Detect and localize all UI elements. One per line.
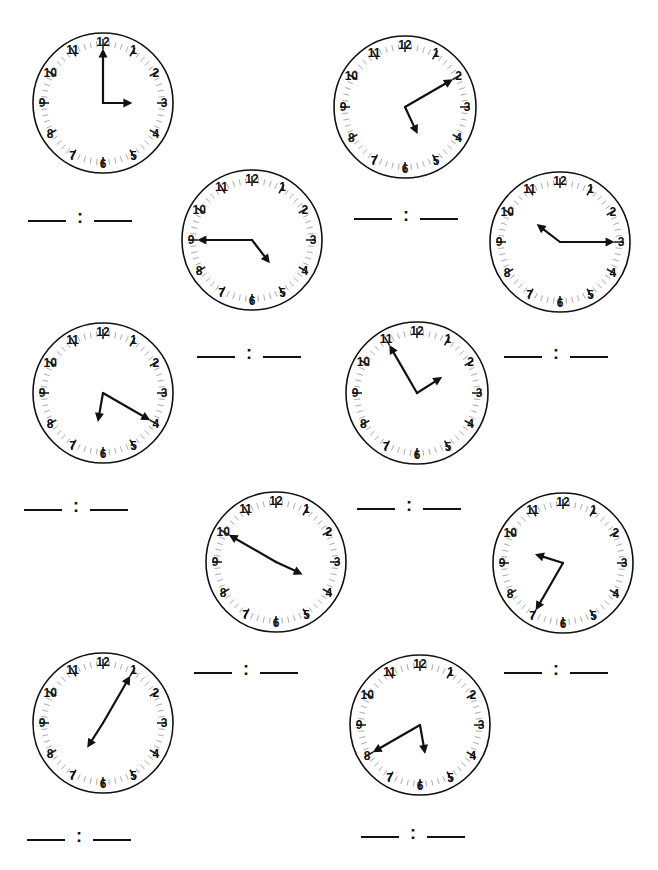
svg-text:7: 7 xyxy=(371,154,378,168)
svg-text:6: 6 xyxy=(273,616,280,630)
colon-separator: : xyxy=(402,206,410,224)
minute-blank[interactable] xyxy=(260,672,298,674)
time-answer-blank[interactable]: : xyxy=(194,650,298,680)
hour-blank[interactable] xyxy=(194,672,232,674)
svg-text:11: 11 xyxy=(368,46,381,60)
hour-blank[interactable] xyxy=(504,356,542,358)
hour-blank[interactable] xyxy=(504,672,542,674)
svg-text:8: 8 xyxy=(47,417,54,431)
svg-text:5: 5 xyxy=(433,154,440,168)
svg-text:5: 5 xyxy=(445,440,452,454)
svg-text:11: 11 xyxy=(380,332,393,346)
svg-text:12: 12 xyxy=(245,172,259,186)
svg-text:11: 11 xyxy=(239,502,252,516)
svg-text:2: 2 xyxy=(469,688,476,702)
svg-text:1: 1 xyxy=(590,503,597,517)
svg-text:2: 2 xyxy=(467,355,474,369)
time-answer-blank[interactable]: : xyxy=(357,486,461,516)
svg-text:8: 8 xyxy=(364,749,371,763)
time-answer-blank[interactable]: : xyxy=(27,817,131,847)
svg-text:6: 6 xyxy=(100,157,107,171)
svg-text:11: 11 xyxy=(526,503,539,517)
time-answer-blank[interactable]: : xyxy=(361,814,465,844)
svg-text:5: 5 xyxy=(590,609,597,623)
svg-text:5: 5 xyxy=(303,608,310,622)
svg-text:10: 10 xyxy=(345,69,359,83)
analog-clock: 121234567891011 xyxy=(347,652,493,798)
time-answer-blank[interactable]: : xyxy=(504,334,608,364)
svg-text:12: 12 xyxy=(96,325,110,339)
colon-separator: : xyxy=(245,344,253,362)
hour-blank[interactable] xyxy=(24,509,62,511)
analog-clock: 121234567891011 xyxy=(490,490,636,636)
svg-text:10: 10 xyxy=(193,203,207,217)
hour-blank[interactable] xyxy=(354,218,392,220)
svg-text:3: 3 xyxy=(161,96,168,110)
minute-blank[interactable] xyxy=(420,218,458,220)
hour-blank[interactable] xyxy=(28,220,66,222)
minute-blank[interactable] xyxy=(570,672,608,674)
svg-text:12: 12 xyxy=(413,657,427,671)
svg-text:7: 7 xyxy=(526,288,533,302)
svg-text:4: 4 xyxy=(152,127,159,141)
time-answer-blank[interactable]: : xyxy=(197,334,301,364)
svg-text:4: 4 xyxy=(301,264,308,278)
hour-blank[interactable] xyxy=(361,836,399,838)
svg-text:8: 8 xyxy=(220,586,227,600)
svg-text:5: 5 xyxy=(279,286,286,300)
svg-text:7: 7 xyxy=(69,149,76,163)
svg-text:12: 12 xyxy=(96,35,110,49)
colon-separator: : xyxy=(409,824,417,842)
minute-blank[interactable] xyxy=(94,220,132,222)
svg-text:11: 11 xyxy=(66,663,79,677)
svg-text:9: 9 xyxy=(352,386,359,400)
minute-blank[interactable] xyxy=(93,839,131,841)
svg-text:6: 6 xyxy=(100,777,107,791)
hour-blank[interactable] xyxy=(357,508,395,510)
minute-blank[interactable] xyxy=(570,356,608,358)
svg-text:2: 2 xyxy=(152,66,159,80)
svg-text:10: 10 xyxy=(44,356,58,370)
svg-text:3: 3 xyxy=(621,556,628,570)
svg-text:5: 5 xyxy=(587,288,594,302)
svg-text:4: 4 xyxy=(612,587,619,601)
svg-text:4: 4 xyxy=(609,266,616,280)
time-answer-blank[interactable]: : xyxy=(24,487,128,517)
svg-text:12: 12 xyxy=(398,38,412,52)
svg-text:2: 2 xyxy=(152,356,159,370)
svg-text:1: 1 xyxy=(445,332,452,346)
svg-text:11: 11 xyxy=(66,333,79,347)
minute-blank[interactable] xyxy=(263,356,301,358)
svg-text:12: 12 xyxy=(553,174,567,188)
svg-text:3: 3 xyxy=(310,233,317,247)
svg-text:9: 9 xyxy=(188,233,195,247)
time-answer-blank[interactable]: : xyxy=(28,198,132,228)
clock-face: 121234567891011 xyxy=(487,169,633,315)
svg-text:10: 10 xyxy=(44,686,58,700)
analog-clock: 121234567891011 xyxy=(331,33,479,181)
svg-text:1: 1 xyxy=(279,180,286,194)
time-answer-blank[interactable]: : xyxy=(354,196,458,226)
clock-face: 121234567891011 xyxy=(203,489,349,635)
svg-text:2: 2 xyxy=(609,205,616,219)
clock-face: 121234567891011 xyxy=(490,490,636,636)
hour-blank[interactable] xyxy=(27,839,65,841)
svg-text:2: 2 xyxy=(612,526,619,540)
analog-clock: 121234567891011 xyxy=(30,30,176,176)
time-answer-blank[interactable]: : xyxy=(504,650,608,680)
svg-text:7: 7 xyxy=(242,608,249,622)
svg-text:4: 4 xyxy=(467,417,474,431)
svg-text:1: 1 xyxy=(130,333,137,347)
svg-text:7: 7 xyxy=(386,771,393,785)
clock-face: 121234567891011 xyxy=(343,319,491,467)
minute-blank[interactable] xyxy=(423,508,461,510)
svg-text:8: 8 xyxy=(47,127,54,141)
minute-blank[interactable] xyxy=(90,509,128,511)
svg-text:8: 8 xyxy=(507,587,514,601)
minute-blank[interactable] xyxy=(427,836,465,838)
svg-text:6: 6 xyxy=(560,617,567,631)
svg-text:2: 2 xyxy=(325,525,332,539)
analog-clock: 121234567891011 xyxy=(30,650,176,796)
hour-blank[interactable] xyxy=(197,356,235,358)
svg-text:12: 12 xyxy=(96,655,110,669)
